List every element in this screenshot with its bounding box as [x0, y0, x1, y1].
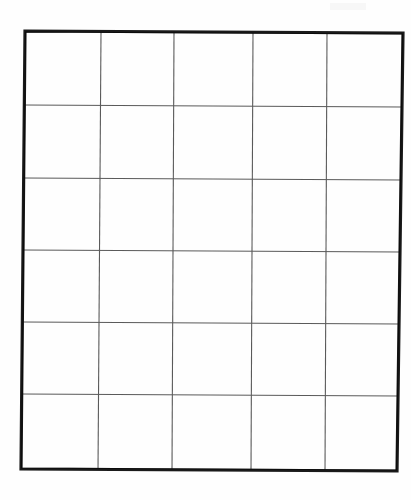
- grid-cell-r5c2[interactable]: [100, 322, 173, 394]
- grid-table[interactable]: [0, 0, 411, 500]
- grid-cell-r6c3[interactable]: [172, 394, 251, 469]
- grid-cell-r3c5[interactable]: [327, 179, 402, 251]
- grid-cell-r5c3[interactable]: [173, 322, 252, 394]
- grid-cell-r3c3[interactable]: [174, 178, 253, 250]
- grid-cell-r1c1[interactable]: [25, 32, 101, 105]
- grid-cell-r2c5[interactable]: [327, 106, 403, 179]
- grid-cell-r6c1[interactable]: [22, 394, 99, 469]
- grid-cell-r2c4[interactable]: [253, 105, 327, 178]
- grid-cell-r3c1[interactable]: [24, 178, 101, 250]
- grid-cell-r2c2[interactable]: [101, 105, 174, 178]
- screenshot-root: [0, 0, 411, 500]
- grid-cell-r2c1[interactable]: [25, 105, 101, 178]
- grid-cell-r6c5[interactable]: [325, 395, 399, 470]
- grid-cell-r5c1[interactable]: [23, 322, 100, 394]
- grid-cell-r6c4[interactable]: [251, 395, 325, 470]
- grid-cell-r6c2[interactable]: [99, 394, 172, 469]
- grid-cell-r4c1[interactable]: [24, 250, 101, 322]
- grid-cell-r4c4[interactable]: [253, 250, 327, 322]
- grid-cell-r1c2[interactable]: [101, 32, 174, 105]
- grid-cell-r5c5[interactable]: [326, 323, 400, 395]
- grid-cell-r1c3[interactable]: [174, 32, 253, 105]
- grid-cell-r3c4[interactable]: [253, 178, 327, 250]
- grid-cell-r3c2[interactable]: [101, 178, 174, 250]
- grid-cell-r4c3[interactable]: [174, 250, 253, 322]
- grid-cell-r1c4[interactable]: [253, 32, 327, 105]
- grid-cell-r5c4[interactable]: [252, 322, 326, 394]
- grid-cell-r1c5[interactable]: [327, 33, 403, 106]
- grid-cell-r2c3[interactable]: [174, 105, 253, 178]
- grid-cell-r4c2[interactable]: [101, 250, 174, 322]
- grid-cell-r4c5[interactable]: [327, 251, 401, 323]
- grid-cell-layer: [0, 0, 411, 500]
